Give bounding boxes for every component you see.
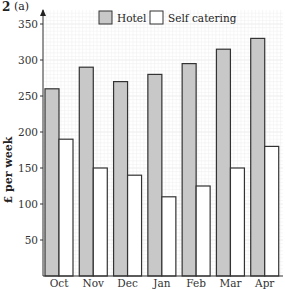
bar-self-catering-oct [59,139,73,276]
bar-self-catering-feb [196,186,210,276]
y-tick-label: 350 [18,18,38,30]
y-tick-label: 150 [18,162,38,174]
x-tick-label: Apr [254,277,275,289]
x-tick-label: Nov [83,277,105,289]
bar-self-catering-dec [128,175,142,276]
y-tick-label: 250 [18,90,38,102]
bar-hotel-apr [251,38,265,276]
y-tick-label: 100 [18,198,38,210]
x-tick-label: Feb [186,277,206,289]
x-tick-label: Dec [117,277,138,289]
bar-hotel-mar [216,49,230,276]
bar-hotel-feb [182,64,196,276]
y-tick-label: 200 [18,126,38,138]
bar-hotel-oct [45,89,59,276]
bar-hotel-nov [79,67,93,276]
bar-self-catering-mar [230,168,244,276]
bar-hotel-jan [148,74,162,276]
x-tick-label: Oct [50,277,69,289]
legend-label: Self catering [168,12,237,24]
bar-self-catering-nov [93,168,107,276]
legend-swatch-hotel [99,11,112,24]
y-tick-label: 300 [18,54,38,66]
x-tick-label: Mar [219,277,242,289]
x-tick-label: Jan [152,277,170,289]
bar-self-catering-jan [162,197,176,276]
bar-self-catering-apr [265,146,279,276]
bar-hotel-dec [114,82,128,276]
legend-swatch-self-catering [150,11,163,24]
legend-label: Hotel [117,12,147,24]
y-tick-label: 50 [25,234,38,246]
bar-chart: OctNovDecJanFebMarApr5010015020025030035… [0,0,285,290]
y-axis-arrow-icon [40,9,46,16]
y-axis-label: £ per week [2,136,15,203]
